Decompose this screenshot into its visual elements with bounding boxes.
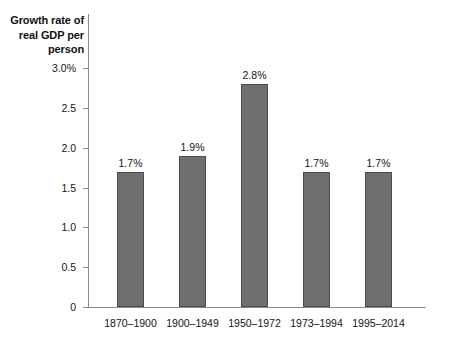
bar-value-label: 1.7% xyxy=(354,158,404,169)
x-axis-category-label: 1995–2014 xyxy=(342,318,416,329)
y-axis-tick xyxy=(83,108,88,109)
bar xyxy=(241,84,268,307)
bar-value-label: 2.8% xyxy=(230,70,280,81)
y-axis-tick xyxy=(83,307,88,308)
bar xyxy=(117,172,144,307)
y-axis-tick xyxy=(83,148,88,149)
y-axis-title: Growth rate of real GDP per person xyxy=(8,13,84,57)
y-axis-tick-label: 3.0% xyxy=(34,63,76,74)
bar-value-label: 1.7% xyxy=(292,158,342,169)
y-axis-tick-label: 0 xyxy=(34,302,76,313)
x-axis-line xyxy=(88,307,426,308)
y-axis-tick-label: 0.5 xyxy=(34,262,76,273)
y-axis-tick-label: 1.5 xyxy=(34,183,76,194)
y-axis-tick xyxy=(83,188,88,189)
y-axis-tick xyxy=(83,68,88,69)
bar-value-label: 1.9% xyxy=(168,142,218,153)
bar xyxy=(303,172,330,307)
bar xyxy=(179,156,206,307)
bar-chart: Growth rate of real GDP per person 3.0%2… xyxy=(0,0,456,352)
bar xyxy=(365,172,392,307)
y-axis-tick xyxy=(83,267,88,268)
y-axis-tick-label: 2.5 xyxy=(34,103,76,114)
y-axis-tick xyxy=(83,227,88,228)
y-axis-tick-label: 2.0 xyxy=(34,143,76,154)
y-axis-tick-label: 1.0 xyxy=(34,222,76,233)
bar-value-label: 1.7% xyxy=(106,158,156,169)
y-axis-line xyxy=(88,14,89,307)
